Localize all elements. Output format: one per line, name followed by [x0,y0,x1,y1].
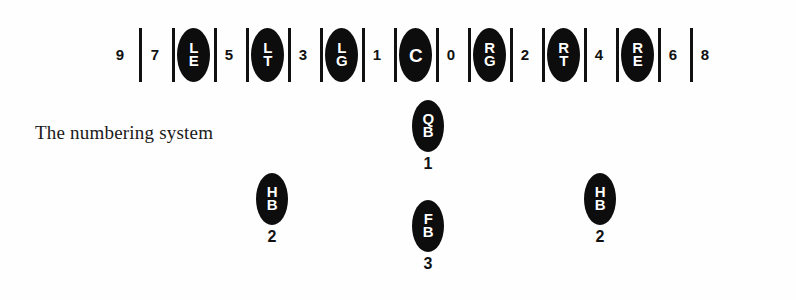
slot-separator-bar [658,28,661,82]
backfield-number: 2 [580,229,620,245]
position-letter: B [423,226,433,239]
figure-caption: The numbering system [35,122,213,144]
backfield-player-qb: QB1 [408,100,448,172]
gap-number: 5 [221,28,237,82]
backfield-player-hb: HB2 [580,173,620,245]
line-position-le: LE [177,28,210,82]
gap-number: 2 [517,28,533,82]
line-position-rt: RT [547,28,580,82]
slot-separator-bar [214,28,217,82]
slot-separator-bar [246,28,249,82]
backfield-number: 3 [408,256,448,272]
backfield-position-marker: HB [584,173,616,225]
slot-separator-bar [139,28,142,82]
line-position-re: RE [621,28,654,82]
football-numbering-diagram: 97LE5LT3LG1C0RG2RT4RE68 The numbering sy… [0,0,796,300]
gap-number: 8 [697,28,713,82]
backfield-number: 2 [252,229,292,245]
position-letter: B [595,199,605,212]
line-position-c: C [399,28,432,82]
slot-separator-bar [510,28,513,82]
slot-separator-bar [288,28,291,82]
slot-separator-bar [690,28,693,82]
slot-separator-bar [436,28,439,82]
position-letter: T [559,55,568,68]
position-letter: C [409,46,422,65]
position-letter: T [263,55,272,68]
gap-number: 0 [443,28,459,82]
slot-separator-bar [394,28,397,82]
gap-number: 9 [112,28,128,82]
slot-separator-bar [172,28,175,82]
gap-number: 1 [369,28,385,82]
backfield-player-fb: FB3 [408,200,448,272]
backfield-position-marker: HB [256,173,288,225]
slot-separator-bar [584,28,587,82]
backfield-player-hb: HB2 [252,173,292,245]
backfield-number: 1 [408,156,448,172]
backfield-position-marker: FB [412,200,444,252]
position-letter: B [423,126,433,139]
gap-number: 6 [665,28,681,82]
line-position-rg: RG [473,28,506,82]
backfield-position-marker: QB [412,100,444,152]
position-letter: G [484,55,495,68]
position-letter: E [189,55,199,68]
gap-number: 7 [147,28,163,82]
line-of-scrimmage-row: 97LE5LT3LG1C0RG2RT4RE68 [0,28,796,82]
slot-separator-bar [542,28,545,82]
slot-separator-bar [616,28,619,82]
slot-separator-bar [468,28,471,82]
line-position-lg: LG [325,28,358,82]
slot-separator-bar [362,28,365,82]
position-letter: B [267,199,277,212]
position-letter: E [633,55,643,68]
gap-number: 3 [295,28,311,82]
position-letter: G [336,55,347,68]
gap-number: 4 [591,28,607,82]
line-position-lt: LT [251,28,284,82]
slot-separator-bar [320,28,323,82]
